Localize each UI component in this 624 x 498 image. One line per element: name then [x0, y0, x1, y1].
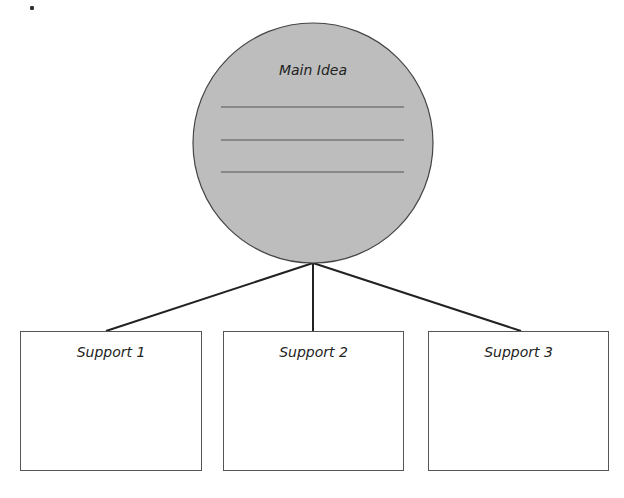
connector-3: [313, 263, 521, 331]
connector-1: [106, 263, 313, 331]
support-box-3[interactable]: Support 3: [428, 331, 609, 471]
main-idea-circle: [193, 23, 433, 263]
support-label-2: Support 2: [224, 344, 403, 360]
main-idea-label: Main Idea: [233, 62, 393, 78]
support-label-1: Support 1: [21, 344, 201, 360]
support-label-3: Support 3: [429, 344, 608, 360]
support-box-1[interactable]: Support 1: [20, 331, 202, 471]
support-box-2[interactable]: Support 2: [223, 331, 404, 471]
